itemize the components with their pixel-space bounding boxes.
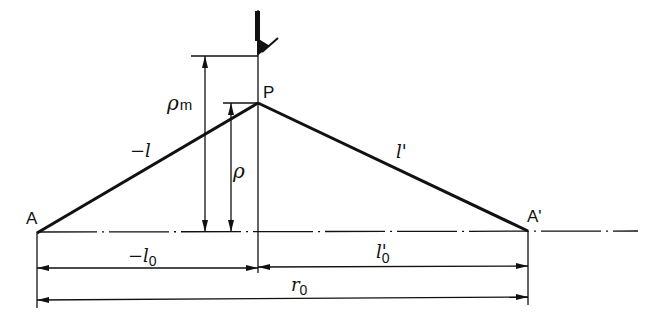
r0-dimension bbox=[37, 297, 528, 300]
label-neg-l: −l bbox=[130, 140, 151, 161]
label-r0: r0 bbox=[291, 274, 308, 298]
label-l-prime: l' bbox=[396, 141, 407, 162]
optical-axis bbox=[37, 231, 638, 232]
label-l0-prime: l'0 bbox=[376, 241, 390, 266]
label-rho: ρ bbox=[232, 159, 245, 183]
label-A: A bbox=[26, 209, 38, 228]
ray-A-to-P bbox=[37, 103, 258, 233]
label-rho-m: ρm bbox=[166, 91, 192, 115]
optical-diagram: A A' P −l l' ρm ρ −l0 l'0 r0 bbox=[0, 0, 662, 329]
ray-P-to-A-prime bbox=[258, 103, 528, 231]
label-P: P bbox=[263, 83, 274, 102]
tool-shank bbox=[255, 11, 260, 41]
label-A-prime: A' bbox=[527, 207, 542, 226]
label-neg-l0: −l0 bbox=[128, 245, 157, 269]
l0-prime-dimension bbox=[258, 266, 528, 267]
